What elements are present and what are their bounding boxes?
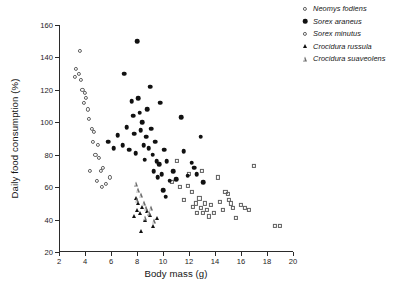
- x-tick: [293, 252, 294, 256]
- legend-marker: [300, 16, 310, 26]
- x-tick-label: 14: [211, 257, 219, 266]
- x-tick: [85, 252, 86, 256]
- x-tick: [189, 252, 190, 256]
- open-triangle-icon: [139, 193, 143, 198]
- legend-marker: [300, 54, 310, 64]
- y-tick-label: 160: [40, 21, 53, 30]
- x-tick: [111, 252, 112, 256]
- y-tick-label: 60: [45, 183, 53, 192]
- open-circle-icon: [303, 32, 307, 36]
- open-triangle-icon: [149, 206, 153, 211]
- x-tick-label: 2: [57, 257, 61, 266]
- open-triangle-icon: [147, 211, 151, 216]
- legend-item-label: Neomys fodiens: [313, 4, 367, 13]
- legend-item-4[interactable]: Crocidura russula: [300, 41, 419, 53]
- y-tick-label: 100: [40, 118, 53, 127]
- filled-triangle-icon: [303, 44, 307, 48]
- open-triangle-icon: [152, 219, 156, 224]
- filled-circle-icon: [303, 19, 308, 24]
- x-tick-label: 18: [263, 257, 271, 266]
- y-tick-label: 40: [45, 215, 53, 224]
- y-tick-label: 80: [45, 150, 53, 159]
- open-circle-icon: [303, 7, 307, 11]
- y-tick-label: 20: [45, 248, 53, 257]
- open-triangle-icon: [135, 198, 139, 203]
- x-tick-label: 4: [83, 257, 87, 266]
- x-tick: [59, 252, 60, 256]
- open-triangle-icon: [134, 181, 138, 186]
- legend-marker: [300, 4, 310, 14]
- x-tick: [241, 252, 242, 256]
- x-tick: [163, 252, 164, 256]
- x-tick: [137, 252, 138, 256]
- x-tick-label: 10: [159, 257, 167, 266]
- legend-item-5[interactable]: Crocidura suaveolens: [300, 53, 419, 65]
- legend-item-2[interactable]: Sorex araneus: [300, 16, 419, 28]
- y-axis-label: Daily food consumption (%): [8, 25, 22, 252]
- x-tick-label: 6: [109, 257, 113, 266]
- y-tick-label: 120: [40, 85, 53, 94]
- legend-item-1[interactable]: Neomys fodiens: [300, 3, 419, 15]
- x-tick-label: 16: [237, 257, 245, 266]
- chart-legend: Neomys fodiensSorex araneusSorex minutus…: [300, 3, 419, 65]
- legend-item-label: Crocidura suaveolens: [313, 54, 385, 63]
- plot-area: 20406080100120140160 2468101214161820: [59, 25, 293, 252]
- legend-marker: [300, 41, 310, 51]
- x-tick: [215, 252, 216, 256]
- x-tick-label: 20: [289, 257, 297, 266]
- legend-item-label: Sorex araneus: [313, 17, 362, 26]
- legend-marker: [300, 29, 310, 39]
- legend-item-3[interactable]: Sorex minutus: [300, 28, 419, 40]
- x-tick-label: 8: [135, 257, 139, 266]
- y-axis-label-text: Daily food consumption (%): [10, 79, 21, 199]
- open-triangle-icon: [143, 215, 147, 220]
- x-axis-label: Body mass (g): [59, 268, 293, 279]
- scatter-plot-figure: Neomys fodiensSorex araneusSorex minutus…: [0, 0, 419, 287]
- open-triangle-icon: [303, 56, 307, 61]
- y-tick-label: 140: [40, 53, 53, 62]
- legend-item-label: Sorex minutus: [313, 29, 361, 38]
- x-tick: [267, 252, 268, 256]
- legend-item-label: Crocidura russula: [313, 42, 372, 51]
- x-tick-label: 12: [185, 257, 193, 266]
- series-5: [59, 25, 293, 252]
